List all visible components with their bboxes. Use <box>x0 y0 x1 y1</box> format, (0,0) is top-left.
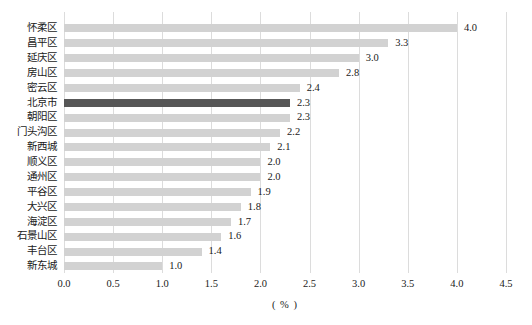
bar <box>64 188 251 196</box>
bar-rows: 怀柔区4.0昌平区3.3延庆区3.0房山区2.8密云区2.4北京市2.3朝阳区2… <box>0 21 532 274</box>
x-tick-label: 2.5 <box>290 278 330 290</box>
category-label: 房山区 <box>0 68 57 79</box>
bar <box>64 143 270 151</box>
value-label: 1.7 <box>238 217 251 228</box>
bar-track: 2.0 <box>64 155 506 170</box>
category-label: 新西城 <box>0 142 57 153</box>
category-label: 丰台区 <box>0 246 57 257</box>
x-tick-label: 3.0 <box>339 278 379 290</box>
bar-track: 1.9 <box>64 185 506 200</box>
category-label: 密云区 <box>0 83 57 94</box>
value-label: 1.0 <box>169 261 182 272</box>
bar-row: 密云区2.4 <box>0 81 532 96</box>
bar-track: 3.3 <box>64 36 506 51</box>
category-label: 大兴区 <box>0 202 57 213</box>
bar-row: 延庆区3.0 <box>0 51 532 66</box>
bar <box>64 218 231 226</box>
bar-row: 顺义区2.0 <box>0 155 532 170</box>
value-label: 2.3 <box>297 112 310 123</box>
bar-row: 门头沟区2.2 <box>0 125 532 140</box>
category-label: 昌平区 <box>0 38 57 49</box>
bar <box>64 248 202 256</box>
value-label: 2.0 <box>267 157 280 168</box>
bar-track: 1.6 <box>64 229 506 244</box>
bar-row: 怀柔区4.0 <box>0 21 532 36</box>
bar-track: 2.0 <box>64 170 506 185</box>
value-label: 2.3 <box>297 98 310 109</box>
category-label: 顺义区 <box>0 157 57 168</box>
bar <box>64 262 162 270</box>
bar <box>64 84 300 92</box>
bar-row: 海淀区1.7 <box>0 214 532 229</box>
value-label: 2.8 <box>346 68 359 79</box>
value-label: 2.1 <box>277 142 290 153</box>
category-label: 怀柔区 <box>0 23 57 34</box>
bar-row: 丰台区1.4 <box>0 244 532 259</box>
x-tick-label: 0.5 <box>93 278 133 290</box>
value-label: 1.9 <box>258 187 271 198</box>
bar-track: 2.3 <box>64 110 506 125</box>
bar-track: 4.0 <box>64 21 506 36</box>
bar-row: 大兴区1.8 <box>0 200 532 215</box>
category-label: 门头沟区 <box>0 127 57 138</box>
bar-row: 北京市2.3 <box>0 95 532 110</box>
value-label: 1.4 <box>209 246 222 257</box>
x-tick-label: 4.0 <box>437 278 477 290</box>
bar-track: 2.8 <box>64 66 506 81</box>
bar-row: 新西城2.1 <box>0 140 532 155</box>
x-tick-label: 2.0 <box>240 278 280 290</box>
bar-track: 1.4 <box>64 244 506 259</box>
category-label: 海淀区 <box>0 217 57 228</box>
x-tick-label: 1.0 <box>142 278 182 290</box>
bar-track: 1.8 <box>64 200 506 215</box>
x-tick-label: 0.0 <box>44 278 84 290</box>
value-label: 3.0 <box>366 53 379 64</box>
x-axis-title: ( % ) <box>64 299 506 310</box>
bar-track: 1.7 <box>64 214 506 229</box>
value-label: 2.0 <box>267 172 280 183</box>
category-label: 通州区 <box>0 172 57 183</box>
value-label: 2.4 <box>307 83 320 94</box>
bar-chart: 怀柔区4.0昌平区3.3延庆区3.0房山区2.8密云区2.4北京市2.3朝阳区2… <box>0 0 532 325</box>
category-label: 朝阳区 <box>0 112 57 123</box>
value-label: 4.0 <box>464 23 477 34</box>
bar <box>64 233 221 241</box>
bar-row: 平谷区1.9 <box>0 185 532 200</box>
category-label: 平谷区 <box>0 187 57 198</box>
bar-row: 新东城1.0 <box>0 259 532 274</box>
category-label: 延庆区 <box>0 53 57 64</box>
x-axis-ticks: 0.00.51.01.52.02.53.03.54.04.5 <box>64 278 506 292</box>
x-tick-label: 1.5 <box>191 278 231 290</box>
bar-track: 1.0 <box>64 259 506 274</box>
category-label: 北京市 <box>0 98 57 109</box>
bar <box>64 203 241 211</box>
bar <box>64 39 388 47</box>
bar-track: 3.0 <box>64 51 506 66</box>
x-tick-label: 3.5 <box>388 278 428 290</box>
bar <box>64 69 339 77</box>
bar-track: 2.1 <box>64 140 506 155</box>
value-label: 3.3 <box>395 38 408 49</box>
bar-row: 石景山区1.6 <box>0 229 532 244</box>
category-label: 新东城 <box>0 261 57 272</box>
value-label: 1.8 <box>248 202 261 213</box>
bar <box>64 54 359 62</box>
bar-row: 通州区2.0 <box>0 170 532 185</box>
bar-track: 2.2 <box>64 125 506 140</box>
bar <box>64 173 260 181</box>
value-label: 2.2 <box>287 127 300 138</box>
bar-row: 昌平区3.3 <box>0 36 532 51</box>
bar-track: 2.4 <box>64 81 506 96</box>
bar <box>64 24 457 32</box>
bar-row: 朝阳区2.3 <box>0 110 532 125</box>
bar <box>64 129 280 137</box>
x-tick-label: 4.5 <box>486 278 526 290</box>
bar <box>64 114 290 122</box>
category-label: 石景山区 <box>0 231 57 242</box>
value-label: 1.6 <box>228 231 241 242</box>
bar-highlighted <box>64 99 290 107</box>
bar-row: 房山区2.8 <box>0 66 532 81</box>
bar <box>64 158 260 166</box>
bar-track: 2.3 <box>64 95 506 110</box>
